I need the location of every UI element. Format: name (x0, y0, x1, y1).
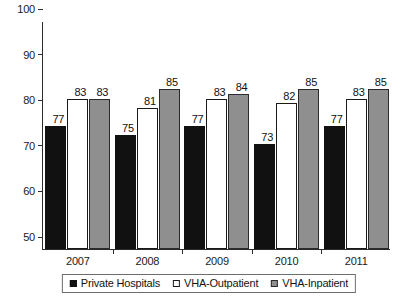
bar-value-label: 75 (122, 122, 135, 134)
bar (254, 144, 275, 249)
x-axis-tick-mark (321, 249, 322, 254)
bar-value-label: 77 (52, 113, 65, 125)
bar (159, 89, 180, 249)
bar-value-label: 73 (261, 131, 274, 143)
bar (206, 99, 227, 249)
bars-layer: 778383758185778384738285778385 (43, 22, 390, 249)
bar (276, 103, 297, 249)
bar-value-label: 83 (353, 86, 366, 98)
x-axis-tick-mark (182, 249, 183, 254)
bar-value-label: 85 (375, 76, 388, 88)
y-axis-tick-label: 100 (17, 3, 35, 15)
plot-area: 5060708090100 77838375818577838473828577… (42, 22, 390, 250)
x-axis-tick-label: 2009 (205, 255, 229, 267)
bar (67, 99, 88, 249)
bar-value-label: 82 (283, 90, 296, 102)
bar (228, 94, 249, 249)
y-axis-tick: 50 (23, 231, 43, 243)
y-axis-tick-label: 70 (23, 140, 35, 152)
y-axis-tick-label: 90 (23, 49, 35, 61)
bar-value-label: 83 (96, 86, 109, 98)
y-axis-tick: 100 (17, 3, 43, 15)
bar (368, 89, 389, 249)
bar-group: 778385 (321, 22, 391, 249)
bar-group: 778383 (43, 22, 113, 249)
bar-value-label: 81 (144, 95, 157, 107)
bar (45, 126, 66, 249)
bar-value-label: 84 (236, 81, 249, 93)
y-axis-tick-mark (38, 9, 43, 10)
y-axis-tick: 70 (23, 140, 43, 152)
bar-value-label: 77 (192, 113, 205, 125)
bar (346, 99, 367, 249)
bar (115, 135, 136, 249)
bar-value-label: 85 (166, 76, 179, 88)
bar-group: 778384 (182, 22, 252, 249)
legend-item-label: VHA-Outpatient (184, 277, 258, 289)
bar (137, 108, 158, 249)
bar-value-label: 83 (214, 86, 227, 98)
bar-group: 758185 (113, 22, 183, 249)
bar (298, 89, 319, 249)
y-axis-tick: 60 (23, 185, 43, 197)
legend-item-label: Private Hospitals (81, 277, 160, 289)
bar-value-label: 77 (331, 113, 344, 125)
legend-item-label: VHA-Inpatient (282, 277, 348, 289)
legend-item: Private Hospitals (70, 277, 160, 289)
hollow-white-square-icon (173, 280, 180, 287)
y-axis-tick-label: 80 (23, 94, 35, 106)
x-axis-tick-label: 2008 (136, 255, 160, 267)
filled-gray-square-icon (271, 280, 278, 287)
x-axis-tick-label: 2007 (66, 255, 90, 267)
y-axis-tick-label: 60 (23, 185, 35, 197)
bar (184, 126, 205, 249)
bar-value-label: 83 (74, 86, 87, 98)
x-axis-tick-label: 2010 (275, 255, 299, 267)
y-axis-tick-label: 50 (23, 231, 35, 243)
x-axis-tick-mark (252, 249, 253, 254)
y-axis-tick: 80 (23, 94, 43, 106)
bar-chart: 5060708090100 77838375818577838473828577… (0, 0, 418, 305)
chart-legend: Private HospitalsVHA-OutpatientVHA-Inpat… (62, 274, 356, 293)
x-axis-tick-label: 2011 (345, 255, 368, 267)
x-axis-tick-mark (113, 249, 114, 254)
y-axis-tick: 90 (23, 49, 43, 61)
bar-group: 738285 (252, 22, 322, 249)
filled-black-square-icon (70, 280, 77, 287)
legend-item: VHA-Inpatient (271, 277, 348, 289)
legend-item: VHA-Outpatient (173, 277, 258, 289)
bar (89, 99, 110, 249)
bar (324, 126, 345, 249)
bar-value-label: 85 (305, 76, 318, 88)
